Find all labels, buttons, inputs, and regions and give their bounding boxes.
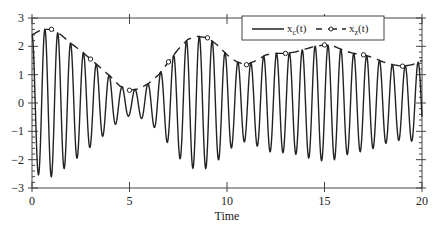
legend: xc(t) xz(t) [242,16,384,40]
series-xz-marker [205,36,209,40]
series-xc-line [32,29,422,176]
y-tick-label: 3 [18,11,24,25]
y-tick-label: −3 [11,181,24,195]
x-tick-label: 5 [127,194,133,208]
legend-marker-circle [329,27,333,31]
y-tick-label: 1 [18,68,24,82]
y-tick-label: 2 [18,39,24,53]
y-tick-label: −1 [11,124,24,138]
y-tick-label: −2 [11,153,24,167]
x-tick-label: 10 [221,194,233,208]
series-xz-marker [283,51,287,55]
series-xz-marker [166,60,170,64]
series-xz-marker [127,88,131,92]
series-xz-marker [361,53,365,57]
line-chart: 3210−1−2−3 05101520 Time xc(t) xz(t) [0,0,439,232]
series-xz-marker [322,43,326,47]
series-xz-marker [49,27,53,31]
series-xz-marker [400,64,404,68]
x-tick-label: 0 [29,194,35,208]
x-axis-title: Time [215,209,240,223]
x-tick-label: 15 [319,194,331,208]
y-tick-label: 0 [18,96,24,110]
series-layer [32,27,422,177]
x-tick-label: 20 [416,194,428,208]
series-xz-marker [88,57,92,61]
series-xz-marker [244,63,248,67]
